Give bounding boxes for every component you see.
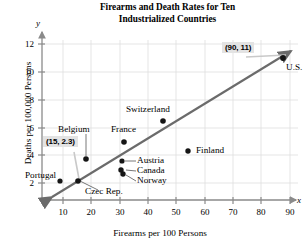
chart-figure: Firearms and Death Rates for Ten Industr… <box>0 0 307 251</box>
data-point-us <box>280 55 286 61</box>
data-point-czec-rep <box>75 178 81 184</box>
x-tick-label-10: 10 <box>54 207 72 217</box>
callout-point-1: (15, 2.3) <box>43 136 78 147</box>
point-label-belgium: Belgium <box>58 124 90 134</box>
point-label-czec-rep: Czec Rep. <box>85 186 123 196</box>
point-label-switzerland: Switzerland <box>126 104 170 114</box>
data-point-switzerland <box>160 118 166 124</box>
x-tick-label-40: 40 <box>139 207 157 217</box>
data-point-norway <box>120 171 125 176</box>
x-axis-variable-label: x <box>297 195 301 205</box>
leader-norway <box>126 175 136 181</box>
leader-canada <box>126 170 136 171</box>
point-label-us: U.S. <box>286 62 302 72</box>
point-label-norway: Norway <box>137 175 167 185</box>
point-label-canada: Canada <box>137 165 165 175</box>
point-label-austria: Austria <box>137 155 164 165</box>
y-axis-variable-label: y <box>36 18 40 28</box>
x-tick-label-20: 20 <box>82 207 100 217</box>
x-tick-label-80: 80 <box>252 207 270 217</box>
point-label-france: France <box>111 124 136 134</box>
x-tick-label-70: 70 <box>224 207 242 217</box>
data-point-portugal <box>57 178 62 183</box>
data-point-austria <box>119 158 124 163</box>
y-axis-title: Deaths per 100,000 Persons <box>23 43 33 183</box>
data-point-finland <box>185 148 190 153</box>
x-axis-title: Firearms per 100 Persons <box>70 228 250 238</box>
point-label-portugal: Portugal <box>25 170 56 180</box>
data-point-belgium <box>83 156 89 162</box>
x-tick-label-50: 50 <box>167 207 185 217</box>
x-tick-label-30: 30 <box>111 207 129 217</box>
x-tick-label-90: 90 <box>281 207 299 217</box>
grid-horizontal <box>42 44 298 183</box>
point-label-finland: Finland <box>196 145 224 155</box>
leader-callout-15-23 <box>74 152 79 179</box>
callout-point-2: (90, 11) <box>222 42 254 53</box>
data-point-france <box>121 139 127 145</box>
x-tick-label-60: 60 <box>196 207 214 217</box>
